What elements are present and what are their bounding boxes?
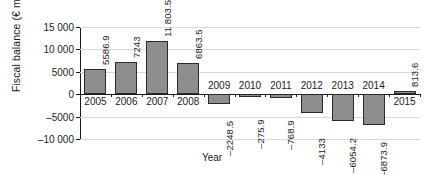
fiscal-balance-bar-chart: Fiscal balance (€ million) 5586.9724311 … — [0, 0, 424, 175]
x-axis-title: Year — [0, 152, 424, 163]
y-tick-label: 15 000 — [43, 22, 74, 33]
y-axis-tick-labels: 15 00010 00050000–5000–10 000 — [0, 0, 424, 175]
y-tick-label: 10 000 — [43, 44, 74, 55]
y-tick-label: –5000 — [46, 111, 74, 122]
y-tick-label: 0 — [68, 89, 74, 100]
y-tick-label: 5000 — [52, 66, 74, 77]
y-tick-label: –10 000 — [38, 134, 74, 145]
